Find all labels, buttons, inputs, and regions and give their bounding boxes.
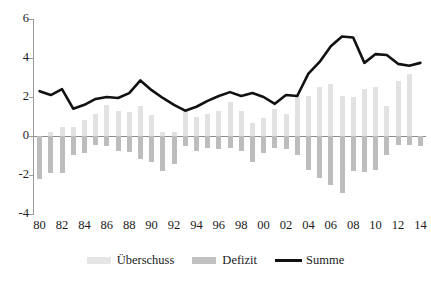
bar-ueberschuss: [340, 96, 345, 136]
bar-defizit: [384, 136, 389, 155]
bar-defizit: [317, 136, 322, 178]
y-tick-label: 6: [3, 12, 29, 25]
bar-ueberschuss: [328, 84, 333, 136]
bar-ueberschuss: [407, 74, 412, 136]
bar-defizit: [284, 136, 289, 149]
chart-container: 6420-2-4 8082848688909294969800020406081…: [0, 0, 431, 285]
legend-item[interactable]: Überschuss: [87, 254, 175, 267]
bar-defizit: [295, 136, 300, 155]
bars-layer: [34, 19, 426, 214]
bar-defizit: [228, 136, 233, 148]
x-tick-label: 98: [230, 218, 252, 232]
bar-defizit: [71, 136, 76, 155]
y-tick-label: 2: [3, 90, 29, 103]
bar-defizit: [60, 136, 65, 173]
legend-bar-dark-swatch: [192, 257, 216, 264]
bar-ueberschuss: [250, 123, 255, 136]
x-tick-label: 04: [297, 218, 319, 232]
x-tick-label: 08: [342, 218, 364, 232]
bar-defizit: [418, 136, 423, 146]
bar-ueberschuss: [317, 87, 322, 136]
x-tick-label: 00: [253, 218, 275, 232]
y-axis-labels: 6420-2-4: [0, 0, 29, 285]
x-tick-label: 14: [409, 218, 431, 232]
bar-ueberschuss: [306, 96, 311, 136]
bar-defizit: [216, 136, 221, 149]
bar-ueberschuss: [60, 127, 65, 136]
legend-item[interactable]: Summe: [275, 254, 344, 267]
bar-defizit: [272, 136, 277, 148]
legend-item[interactable]: Defizit: [192, 254, 257, 267]
bar-ueberschuss: [82, 120, 87, 136]
legend-bar-light-swatch: [87, 257, 111, 264]
bar-defizit: [160, 136, 165, 171]
x-tick-label: 90: [141, 218, 163, 232]
bar-defizit: [37, 136, 42, 179]
bar-defizit: [396, 136, 401, 145]
y-tick-label: 4: [3, 51, 29, 64]
bar-ueberschuss: [104, 105, 109, 136]
x-axis-labels: 808284868890929496980002040608101214: [34, 218, 426, 238]
x-tick-label: 80: [29, 218, 51, 232]
legend-line-swatch: [275, 259, 302, 262]
bar-defizit: [205, 136, 210, 148]
x-tick-label: 02: [275, 218, 297, 232]
bar-defizit: [82, 136, 87, 153]
bar-defizit: [306, 136, 311, 170]
bar-ueberschuss: [228, 102, 233, 136]
bar-ueberschuss: [93, 114, 98, 136]
legend-label: Defizit: [222, 254, 257, 267]
bar-ueberschuss: [149, 115, 154, 136]
x-tick-label: 84: [73, 218, 95, 232]
bar-ueberschuss: [396, 81, 401, 136]
bar-defizit: [194, 136, 199, 151]
legend-label: Überschuss: [117, 254, 175, 267]
bar-defizit: [373, 136, 378, 170]
bar-defizit: [93, 136, 98, 145]
legend-label: Summe: [306, 254, 344, 267]
bar-ueberschuss: [239, 111, 244, 136]
bar-ueberschuss: [183, 110, 188, 136]
x-tick-label: 92: [163, 218, 185, 232]
x-tick-label: 12: [387, 218, 409, 232]
bar-ueberschuss: [384, 106, 389, 136]
y-tick-label: -2: [3, 168, 29, 181]
bar-defizit: [127, 136, 132, 152]
bar-defizit: [362, 136, 367, 172]
bar-ueberschuss: [351, 97, 356, 136]
bar-defizit: [328, 136, 333, 185]
bar-defizit: [351, 136, 356, 171]
bar-ueberschuss: [71, 127, 76, 136]
bar-defizit: [261, 136, 266, 153]
bar-ueberschuss: [138, 106, 143, 136]
bar-defizit: [407, 136, 412, 145]
y-tick-mark: [29, 214, 34, 215]
bar-ueberschuss: [284, 114, 289, 136]
x-tick-label: 88: [118, 218, 140, 232]
bar-defizit: [116, 136, 121, 151]
x-tick-label: 82: [51, 218, 73, 232]
bar-ueberschuss: [272, 109, 277, 136]
bar-defizit: [138, 136, 143, 159]
bar-ueberschuss: [216, 111, 221, 136]
y-tick-label: -4: [3, 207, 29, 220]
x-tick-label: 86: [96, 218, 118, 232]
bar-defizit: [149, 136, 154, 162]
bar-defizit: [340, 136, 345, 193]
x-tick-label: 96: [208, 218, 230, 232]
bar-ueberschuss: [362, 89, 367, 136]
x-tick-label: 06: [320, 218, 342, 232]
bar-defizit: [172, 136, 177, 164]
y-tick-label: 0: [3, 129, 29, 142]
bar-ueberschuss: [295, 95, 300, 136]
bar-defizit: [104, 136, 109, 146]
bar-defizit: [239, 136, 244, 151]
bar-ueberschuss: [205, 114, 210, 136]
bar-ueberschuss: [373, 87, 378, 136]
bar-defizit: [250, 136, 255, 162]
plot-area: [34, 19, 426, 214]
x-tick-label: 94: [185, 218, 207, 232]
bar-defizit: [183, 136, 188, 146]
bar-ueberschuss: [116, 111, 121, 136]
chart-legend: ÜberschussDefizitSumme: [0, 254, 431, 267]
